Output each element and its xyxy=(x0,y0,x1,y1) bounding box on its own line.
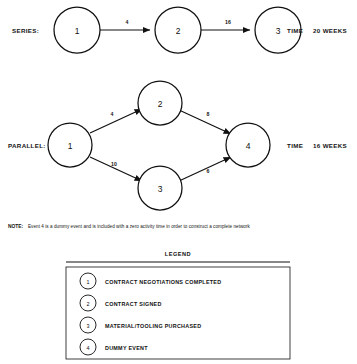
parallel-row-label: PARALLEL: xyxy=(8,142,46,149)
parallel-node-2-label: 2 xyxy=(158,99,163,109)
legend: LEGEND 1 CONTRACT NEGOTIATIONS COMPLETED… xyxy=(66,251,290,359)
legend-item: 4 DUMMY EVENT xyxy=(80,339,148,355)
parallel-edge-3-4-weight: 6 xyxy=(207,168,210,174)
legend-item-num: 3 xyxy=(87,323,90,329)
parallel-edge-2-4-weight: 8 xyxy=(207,111,210,117)
legend-item-label: DUMMY EVENT xyxy=(105,345,148,351)
series-edge-1-2-weight: 4 xyxy=(126,19,129,25)
series-edge-2-3-weight: 16 xyxy=(225,19,231,25)
diagram-canvas: SERIES: 4 16 1 2 3 TIME 20 WEEKS PARALLE… xyxy=(0,0,357,364)
note-body: Event 4 is a dummy event and is included… xyxy=(28,224,251,229)
parallel-edge-1-2-weight: 4 xyxy=(111,111,114,117)
legend-item-num: 2 xyxy=(87,301,90,307)
parallel-node-3-label: 3 xyxy=(158,184,163,194)
parallel-edge-1-3-weight: 10 xyxy=(111,161,117,167)
series-node-3-label: 3 xyxy=(276,26,281,36)
legend-item-num: 4 xyxy=(87,345,90,351)
parallel-edge-1-2 xyxy=(90,109,142,133)
series-node-1-label: 1 xyxy=(75,26,80,36)
series-time-value: 20 WEEKS xyxy=(313,27,347,34)
note-prefix: NOTE: xyxy=(8,224,24,229)
series-network: SERIES: 4 16 1 2 3 TIME 20 WEEKS xyxy=(12,7,347,53)
legend-item-num: 1 xyxy=(87,279,90,285)
legend-item: 3 MATERIAL/TOOLING PURCHASED xyxy=(80,317,201,333)
legend-item-label: MATERIAL/TOOLING PURCHASED xyxy=(105,323,201,329)
legend-item: 2 CONTRACT SIGNED xyxy=(80,295,162,311)
note-block: NOTE: Event 4 is a dummy event and is in… xyxy=(8,224,251,229)
parallel-edge-3-4 xyxy=(179,157,231,181)
parallel-node-1-label: 1 xyxy=(68,141,73,151)
series-row-label: SERIES: xyxy=(12,27,39,34)
legend-item: 1 CONTRACT NEGOTIATIONS COMPLETED xyxy=(80,273,221,289)
legend-item-label: CONTRACT SIGNED xyxy=(105,301,162,307)
series-node-2-label: 2 xyxy=(176,26,181,36)
parallel-time-label: TIME xyxy=(287,142,303,149)
legend-item-label: CONTRACT NEGOTIATIONS COMPLETED xyxy=(105,279,221,285)
legend-title: LEGEND xyxy=(165,251,191,257)
parallel-time-value: 16 WEEKS xyxy=(313,142,347,149)
parallel-node-4-label: 4 xyxy=(246,141,251,151)
series-time-label: TIME xyxy=(287,27,303,34)
network-diagram-page: SERIES: 4 16 1 2 3 TIME 20 WEEKS PARALLE… xyxy=(0,0,357,364)
parallel-edge-2-4 xyxy=(179,110,231,134)
parallel-network: PARALLEL: 4 8 10 6 1 2 3 4 TIME 16 WEEKS xyxy=(8,81,347,210)
